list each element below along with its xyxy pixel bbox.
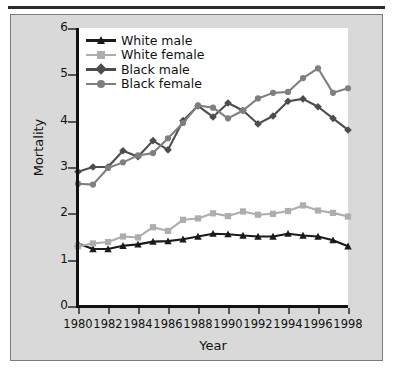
legend-item: Black male [86,62,204,77]
data-point-marker [210,105,216,111]
data-point-marker [225,115,231,121]
data-point-marker [315,207,321,213]
data-point-marker [225,213,231,219]
x-tick-label: 1998 [331,317,365,331]
figure: 0123456198019821984198619881990199219941… [0,0,393,369]
legend-label: Black male [121,62,190,77]
data-point-marker [285,208,291,214]
x-tick-label: 1990 [211,317,245,331]
y-tick-label: 4 [44,113,68,127]
data-point-marker [330,90,336,96]
y-tick-label: 5 [44,66,68,80]
y-axis-line [76,28,79,308]
y-tick [68,167,76,169]
data-point-marker [255,95,261,101]
y-tick [68,306,76,308]
x-tick [78,308,80,314]
y-tick-label: 0 [44,298,68,312]
data-point-marker [135,234,141,240]
data-point-marker [270,211,276,217]
data-point-marker [285,89,291,95]
x-tick [258,308,260,314]
data-point-marker [345,213,351,219]
x-tick-label: 1992 [241,317,275,331]
data-point-marker [150,150,156,156]
legend-marker-diamond [95,64,106,75]
series-white-female [75,202,351,249]
legend-swatch [86,78,116,90]
data-point-marker [240,107,246,113]
legend: White maleWhite femaleBlack maleBlack fe… [86,33,204,91]
x-axis-title: Year [78,338,348,353]
x-tick [198,308,200,314]
top-rule [8,6,385,9]
data-point-marker [165,228,171,234]
data-point-marker [105,165,111,171]
y-tick [68,121,76,123]
legend-marker-circle [97,80,105,88]
data-point-marker [120,159,126,165]
data-point-marker [330,210,336,216]
data-point-marker [300,202,306,208]
x-tick [288,308,290,314]
y-tick-label: 6 [44,20,68,34]
data-point-marker [210,210,216,216]
y-tick-label: 3 [44,159,68,173]
legend-item: White female [86,48,204,63]
data-point-marker [89,163,97,171]
x-tick [318,308,320,314]
legend-marker-triangle [97,36,105,44]
data-point-marker [255,212,261,218]
x-tick [108,308,110,314]
legend-marker-square [97,51,105,59]
legend-item: Black female [86,77,204,92]
y-tick-label: 1 [44,252,68,266]
data-point-marker [165,135,171,141]
x-tick [138,308,140,314]
legend-label: Black female [121,76,202,91]
data-point-marker [90,240,96,246]
x-tick-label: 1994 [271,317,305,331]
data-point-marker [90,182,96,188]
data-point-marker [315,65,321,71]
data-point-marker [180,120,186,126]
data-point-marker [240,208,246,214]
data-point-marker [195,102,201,108]
y-tick-label: 2 [44,205,68,219]
data-point-marker [150,224,156,230]
legend-item: White male [86,33,204,48]
data-point-marker [345,85,351,91]
x-tick-label: 1982 [91,317,125,331]
legend-label: White male [121,33,192,48]
legend-swatch [86,34,116,46]
data-point-marker [299,95,307,103]
y-tick [68,260,76,262]
x-tick [168,308,170,314]
x-tick-label: 1980 [61,317,95,331]
y-tick [68,213,76,215]
data-point-marker [120,233,126,239]
series-white-male [74,230,351,252]
legend-swatch [86,63,116,75]
x-tick-label: 1986 [151,317,185,331]
data-point-marker [195,215,201,221]
y-axis-title: Mortality [31,88,46,208]
y-tick [68,74,76,76]
x-tick [228,308,230,314]
x-tick [348,308,350,314]
legend-label: White female [121,47,204,62]
legend-swatch [86,49,116,61]
data-point-marker [180,217,186,223]
x-tick-label: 1984 [121,317,155,331]
data-point-marker [270,90,276,96]
data-point-marker [300,75,306,81]
x-tick-label: 1996 [301,317,335,331]
x-tick-label: 1988 [181,317,215,331]
data-point-marker [135,152,141,158]
y-tick [68,28,76,30]
data-point-marker [105,239,111,245]
x-axis-line [76,305,348,308]
